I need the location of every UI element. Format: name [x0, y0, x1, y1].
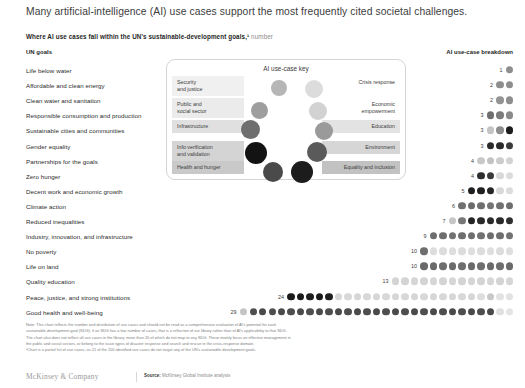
use-case-dot: [496, 96, 503, 103]
use-case-dot: [382, 293, 389, 300]
goal-count: 10: [411, 248, 417, 254]
goal-count: 7: [442, 218, 445, 224]
use-case-dot: [401, 278, 408, 285]
goal-count: 3: [480, 127, 483, 133]
table-row[interactable]: Gender equality3: [0, 139, 525, 153]
use-case-dot: [420, 263, 427, 270]
use-case-dot: [506, 232, 513, 239]
use-case-dot: [420, 278, 427, 285]
use-case-dot: [496, 278, 503, 285]
dot-series: [477, 172, 513, 179]
use-case-dot: [430, 278, 437, 285]
use-case-dot: [487, 232, 494, 239]
goal-label: Climate action: [26, 202, 66, 209]
goal-label: No poverty: [26, 248, 56, 255]
table-row[interactable]: Life on land10: [0, 259, 525, 273]
table-row[interactable]: Climate action6: [0, 199, 525, 213]
use-case-dot: [468, 263, 475, 270]
chart-subtitle-unit: number: [251, 33, 273, 40]
goal-count: 10: [411, 263, 417, 269]
goal-count: 1: [499, 67, 502, 73]
use-case-dot: [468, 278, 475, 285]
table-row[interactable]: Life below water1: [0, 63, 525, 77]
dot-series: [477, 157, 513, 164]
goal-count: 2: [490, 82, 493, 88]
use-case-dot: [287, 293, 294, 300]
use-case-dot: [297, 293, 304, 300]
use-case-dot: [506, 263, 513, 270]
use-case-dot: [373, 293, 380, 300]
table-row[interactable]: Quality education13: [0, 274, 525, 288]
goal-count: 5: [461, 188, 464, 194]
use-case-dot: [316, 293, 323, 300]
use-case-dot: [449, 308, 456, 315]
use-case-dot: [449, 217, 456, 224]
use-case-dot: [430, 308, 437, 315]
page-title: Many artificial-intelligence (AI) use ca…: [26, 6, 509, 17]
use-case-dot: [506, 278, 513, 285]
use-case-dot: [325, 308, 332, 315]
table-row[interactable]: Clean water and sanitation2: [0, 93, 525, 107]
goal-count: 29: [230, 309, 236, 315]
use-case-dot: [506, 96, 513, 103]
dot-series: [392, 278, 513, 285]
use-case-dot: [496, 217, 503, 224]
use-case-dot: [392, 308, 399, 315]
use-case-dot: [278, 308, 285, 315]
goal-label: Quality education: [26, 278, 75, 285]
use-case-dot: [506, 293, 513, 300]
use-case-dot: [363, 308, 370, 315]
table-row[interactable]: Peace, justice, and strong institutions2…: [0, 290, 525, 304]
column-header-breakdown: AI use-case breakdown: [446, 49, 513, 55]
table-row[interactable]: Affordable and clean energy2: [0, 78, 525, 92]
goal-label: Good health and well-being: [26, 308, 103, 315]
use-case-dot: [325, 293, 332, 300]
use-case-dot: [250, 308, 257, 315]
use-case-dot: [477, 263, 484, 270]
table-row[interactable]: Responsible consumption and production3: [0, 108, 525, 122]
column-header-un-goals: UN goals: [26, 49, 52, 55]
use-case-dot: [344, 293, 351, 300]
use-case-dot: [496, 247, 503, 254]
use-case-dot: [477, 217, 484, 224]
use-case-dot: [477, 232, 484, 239]
use-case-dot: [477, 157, 484, 164]
use-case-dot: [439, 293, 446, 300]
use-case-dot: [487, 157, 494, 164]
use-case-dot: [506, 217, 513, 224]
footer-divider: [136, 372, 137, 382]
goal-count: 9: [423, 233, 426, 239]
use-case-dot: [344, 308, 351, 315]
table-row[interactable]: Decent work and economic growth5: [0, 184, 525, 198]
table-row[interactable]: Good health and well-being29: [0, 305, 525, 319]
table-row[interactable]: Sustainable cities and communities3: [0, 123, 525, 137]
use-case-dot: [496, 308, 503, 315]
use-case-dot: [430, 247, 437, 254]
dot-series: [506, 66, 513, 73]
table-row[interactable]: No poverty10: [0, 244, 525, 258]
table-row[interactable]: Partnerships for the goals4: [0, 154, 525, 168]
use-case-dot: [506, 66, 513, 73]
goal-label: Responsible consumption and production: [26, 112, 141, 119]
goal-label: Sustainable cities and communities: [26, 127, 124, 134]
dot-series: [420, 263, 513, 270]
use-case-dot: [363, 293, 370, 300]
goal-count: 24: [278, 294, 284, 300]
use-case-dot: [449, 278, 456, 285]
use-case-dot: [487, 202, 494, 209]
use-case-dot: [506, 308, 513, 315]
use-case-dot: [496, 172, 503, 179]
use-case-dot: [477, 172, 484, 179]
use-case-dot: [487, 112, 494, 119]
goal-label: Reduced inequalities: [26, 218, 84, 225]
use-case-dot: [439, 278, 446, 285]
use-case-dot: [496, 263, 503, 270]
table-row[interactable]: Industry, innovation, and infrastructure…: [0, 229, 525, 243]
use-case-dot: [449, 232, 456, 239]
use-case-dot: [506, 157, 513, 164]
use-case-dot: [477, 293, 484, 300]
table-row[interactable]: Reduced inequalities7: [0, 214, 525, 228]
table-row[interactable]: Zero hunger4: [0, 169, 525, 183]
goal-label: Industry, innovation, and infrastructure: [26, 233, 133, 240]
use-case-dot: [487, 187, 494, 194]
